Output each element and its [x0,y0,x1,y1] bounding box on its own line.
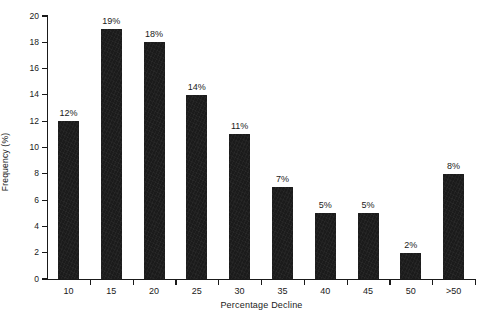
bar [144,42,165,279]
x-axis-tick [261,279,262,285]
bar-value-label: 14% [177,82,217,92]
y-axis-tick [42,147,48,148]
y-axis-tick-label: 16 [0,62,39,74]
y-axis-tick-label: 14 [0,88,39,100]
y-axis-tick-label: 0 [0,273,39,285]
y-axis-tick-label: 10 [0,141,39,153]
bar-value-label: 7% [262,174,302,184]
bar-value-label: 11% [220,121,260,131]
y-axis-tick [42,226,48,227]
bar-value-label: 19% [91,16,131,26]
bar-value-label: 8% [434,161,474,171]
bar [101,29,122,279]
bar [443,174,464,279]
bar-chart: Frequency (%) 02468101214161820 10152025… [0,0,486,324]
bar [400,253,421,279]
bar [229,134,250,279]
bar [358,213,379,279]
y-axis-tick [42,121,48,122]
x-axis-tick [218,279,219,285]
y-axis-tick-label: 8 [0,167,39,179]
bar-value-label: 12% [48,108,88,118]
y-axis-tick [42,94,48,95]
bar-value-label: 18% [134,29,174,39]
y-axis-tick [42,15,48,16]
x-axis-tick-label: 40 [305,286,345,296]
bar [186,95,207,279]
x-axis-tick [133,279,134,285]
x-axis-tick-label: 20 [134,286,174,296]
y-axis-tick [42,252,48,253]
x-axis-tick [175,279,176,285]
y-axis-tick-label: 20 [0,10,39,22]
x-axis-title: Percentage Decline [47,300,476,310]
bar-value-label: 2% [391,240,431,250]
bar [58,121,79,279]
y-axis-tick [42,42,48,43]
y-axis-tick [42,278,48,279]
x-axis-tick [347,279,348,285]
x-axis-tick-label: 50 [391,286,431,296]
bar-value-label: 5% [348,200,388,210]
y-axis-tick-label: 12 [0,115,39,127]
y-axis-tick-label: 6 [0,194,39,206]
x-axis-tick-label: 35 [262,286,302,296]
x-axis-tick-label: 30 [220,286,260,296]
y-axis-tick-label: 18 [0,36,39,48]
x-axis-tick-label: 15 [91,286,131,296]
y-axis-tick [42,68,48,69]
x-axis-tick [475,279,476,285]
x-axis-tick [389,279,390,285]
x-axis-tick [304,279,305,285]
x-axis-tick [90,279,91,285]
x-axis-tick-label: >50 [434,286,474,296]
y-axis-tick [42,173,48,174]
y-axis-tick [42,200,48,201]
y-axis-tick-label: 4 [0,220,39,232]
x-axis-tick-label: 10 [48,286,88,296]
x-axis-tick [432,279,433,285]
y-axis-tick-label: 2 [0,246,39,258]
bar-value-label: 5% [305,200,345,210]
bar [315,213,336,279]
bar [272,187,293,279]
x-axis-tick-label: 45 [348,286,388,296]
x-axis-tick-label: 25 [177,286,217,296]
